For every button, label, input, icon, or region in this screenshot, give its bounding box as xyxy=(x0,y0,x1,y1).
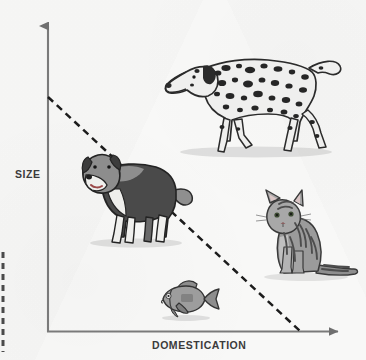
standing-dog-body xyxy=(82,154,192,243)
dalmatian-shadow xyxy=(180,147,332,158)
fish-shadow xyxy=(162,315,210,321)
standing-dog-image xyxy=(80,143,198,251)
y-axis-label: SIZE xyxy=(15,168,41,180)
fish-body xyxy=(162,281,220,317)
standing-dog-shadow xyxy=(90,239,182,248)
sitting-cat-image xyxy=(254,189,360,285)
fish-image xyxy=(155,277,221,323)
x-axis-label: DOMESTICATION xyxy=(152,339,246,351)
dalmatian-body xyxy=(165,59,340,152)
cat-body xyxy=(256,190,358,275)
figure-canvas: SIZE DOMESTICATION xyxy=(0,0,366,360)
